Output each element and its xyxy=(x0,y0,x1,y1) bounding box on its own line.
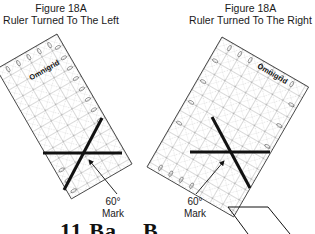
diagram-canvas: Omnigrid Omnigrid xyxy=(0,0,315,234)
ruler-left xyxy=(0,34,132,199)
right-60-mark-label: 60° Mark xyxy=(180,196,210,220)
ruler-left-body xyxy=(0,34,132,199)
ruler-right-body xyxy=(147,37,309,217)
left-mark-degree: 60° xyxy=(98,196,128,208)
ruler-right xyxy=(147,37,309,217)
bottom-partial-heading: 11 Ba... B... xyxy=(60,218,178,234)
right-mark-degree: 60° xyxy=(180,196,210,208)
left-60-mark-label: 60° Mark xyxy=(98,196,128,220)
right-mark-text: Mark xyxy=(180,208,210,220)
